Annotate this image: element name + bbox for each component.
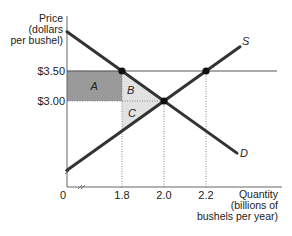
x-tick-label: 1.8 [114, 189, 129, 201]
y-axis-title-line-3: per bushel) [10, 34, 63, 46]
supply-demand-diagram: A B C S D Price (dollars per bushel) $3.… [0, 0, 292, 236]
region-c-label: C [128, 107, 136, 119]
x-tick-label: 2.0 [156, 189, 171, 201]
supply-label: S [242, 35, 250, 47]
point-equilibrium [160, 97, 167, 104]
supply-curve [67, 47, 240, 171]
demand-label: D [240, 147, 248, 159]
x-tick-label: 2.2 [198, 189, 213, 201]
y-tick-label: $3.00 [37, 95, 65, 107]
point-supply-at-floor [202, 67, 209, 74]
region-b-label: B [127, 84, 134, 96]
origin-label: 0 [60, 189, 66, 201]
region-a-label: A [90, 80, 98, 92]
y-tick-label: $3.50 [37, 65, 65, 77]
point-demand-at-floor [118, 67, 125, 74]
x-axis-title-line-3: bushels per year) [197, 210, 278, 222]
